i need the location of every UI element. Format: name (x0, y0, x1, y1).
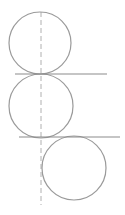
circle-bottom (42, 136, 106, 200)
circle-top (9, 12, 71, 74)
tangent-circles-diagram (0, 0, 125, 215)
